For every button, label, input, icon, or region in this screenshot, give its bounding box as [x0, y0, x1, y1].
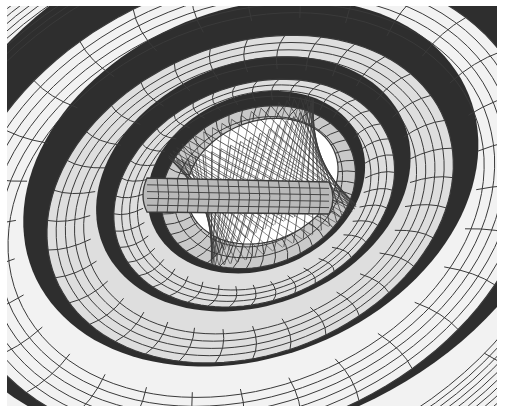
- wireframe-illustration: [7, 6, 497, 406]
- figure-frame: [7, 6, 497, 406]
- central-tube: [143, 178, 333, 214]
- tube-body: [143, 178, 333, 214]
